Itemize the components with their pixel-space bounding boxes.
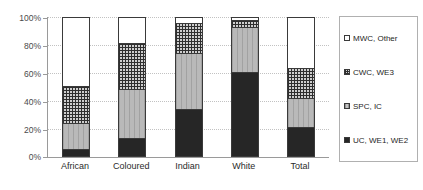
bar-white[interactable] <box>231 17 259 157</box>
ytick-label-80: 80% <box>24 41 41 51</box>
legend-swatch-icon <box>344 137 350 143</box>
bar-segment[interactable] <box>232 18 258 21</box>
bar-segment[interactable] <box>63 124 89 150</box>
legend-swatch-icon <box>344 69 350 75</box>
bar-group <box>48 17 329 157</box>
bar-segment[interactable] <box>288 128 314 156</box>
legend-label: MWC, Other <box>353 34 397 43</box>
stacked-bar-chart: 100% 80% 60% 40% 20% 0% AfricanColouredI… <box>0 0 423 190</box>
ytick-label-40: 40% <box>24 97 41 107</box>
legend-item[interactable]: SPC, IC <box>344 102 417 111</box>
ytick-label-60: 60% <box>24 69 41 79</box>
legend-label: SPC, IC <box>353 102 382 111</box>
bar-slot-white <box>217 17 273 157</box>
bar-segment[interactable] <box>63 87 89 124</box>
bar-total[interactable] <box>287 17 315 157</box>
bar-segment[interactable] <box>288 99 314 128</box>
bar-slot-total <box>273 17 329 157</box>
legend-label: CWC, WE3 <box>353 68 394 77</box>
bar-segment[interactable] <box>176 54 202 111</box>
x-axis-label-coloured: Coloured <box>103 161 159 171</box>
legend-swatch-icon <box>344 103 350 109</box>
bar-segment[interactable] <box>176 24 202 54</box>
bar-segment[interactable] <box>119 90 145 140</box>
bar-segment[interactable] <box>288 18 314 69</box>
ytick-0 <box>43 157 48 158</box>
bar-segment[interactable] <box>232 73 258 156</box>
bar-segment[interactable] <box>232 28 258 74</box>
legend-swatch-icon <box>344 35 350 41</box>
bar-slot-indian <box>160 17 216 157</box>
legend-item[interactable]: UC, WE1, WE2 <box>344 136 417 145</box>
bar-segment[interactable] <box>176 18 202 24</box>
bar-segment[interactable] <box>119 44 145 90</box>
bar-segment[interactable] <box>176 110 202 156</box>
x-axis-label-white: White <box>216 161 272 171</box>
bar-slot-coloured <box>104 17 160 157</box>
ytick-label-20: 20% <box>24 125 41 135</box>
legend-item[interactable]: CWC, WE3 <box>344 68 417 77</box>
bar-segment[interactable] <box>288 69 314 99</box>
bar-slot-african <box>48 17 104 157</box>
x-axis-label-total: Total <box>272 161 328 171</box>
ytick-label-0: 0% <box>29 152 41 162</box>
chart-legend: MWC, OtherCWC, WE3SPC, ICUC, WE1, WE2 <box>339 16 418 162</box>
bar-segment[interactable] <box>63 150 89 156</box>
x-axis-label-african: African <box>47 161 103 171</box>
legend-label: UC, WE1, WE2 <box>353 136 408 145</box>
legend-item[interactable]: MWC, Other <box>344 34 417 43</box>
bar-segment[interactable] <box>232 21 258 28</box>
bar-african[interactable] <box>62 17 90 157</box>
bar-indian[interactable] <box>175 17 203 157</box>
x-axis-labels: AfricanColouredIndianWhiteTotal <box>47 161 328 171</box>
bar-segment[interactable] <box>63 18 89 87</box>
x-axis-label-indian: Indian <box>159 161 215 171</box>
ytick-label-100: 100% <box>19 13 41 23</box>
bar-segment[interactable] <box>119 139 145 156</box>
bar-coloured[interactable] <box>118 17 146 157</box>
plot-area: 100% 80% 60% 40% 20% 0% <box>47 17 329 158</box>
bar-segment[interactable] <box>119 18 145 44</box>
